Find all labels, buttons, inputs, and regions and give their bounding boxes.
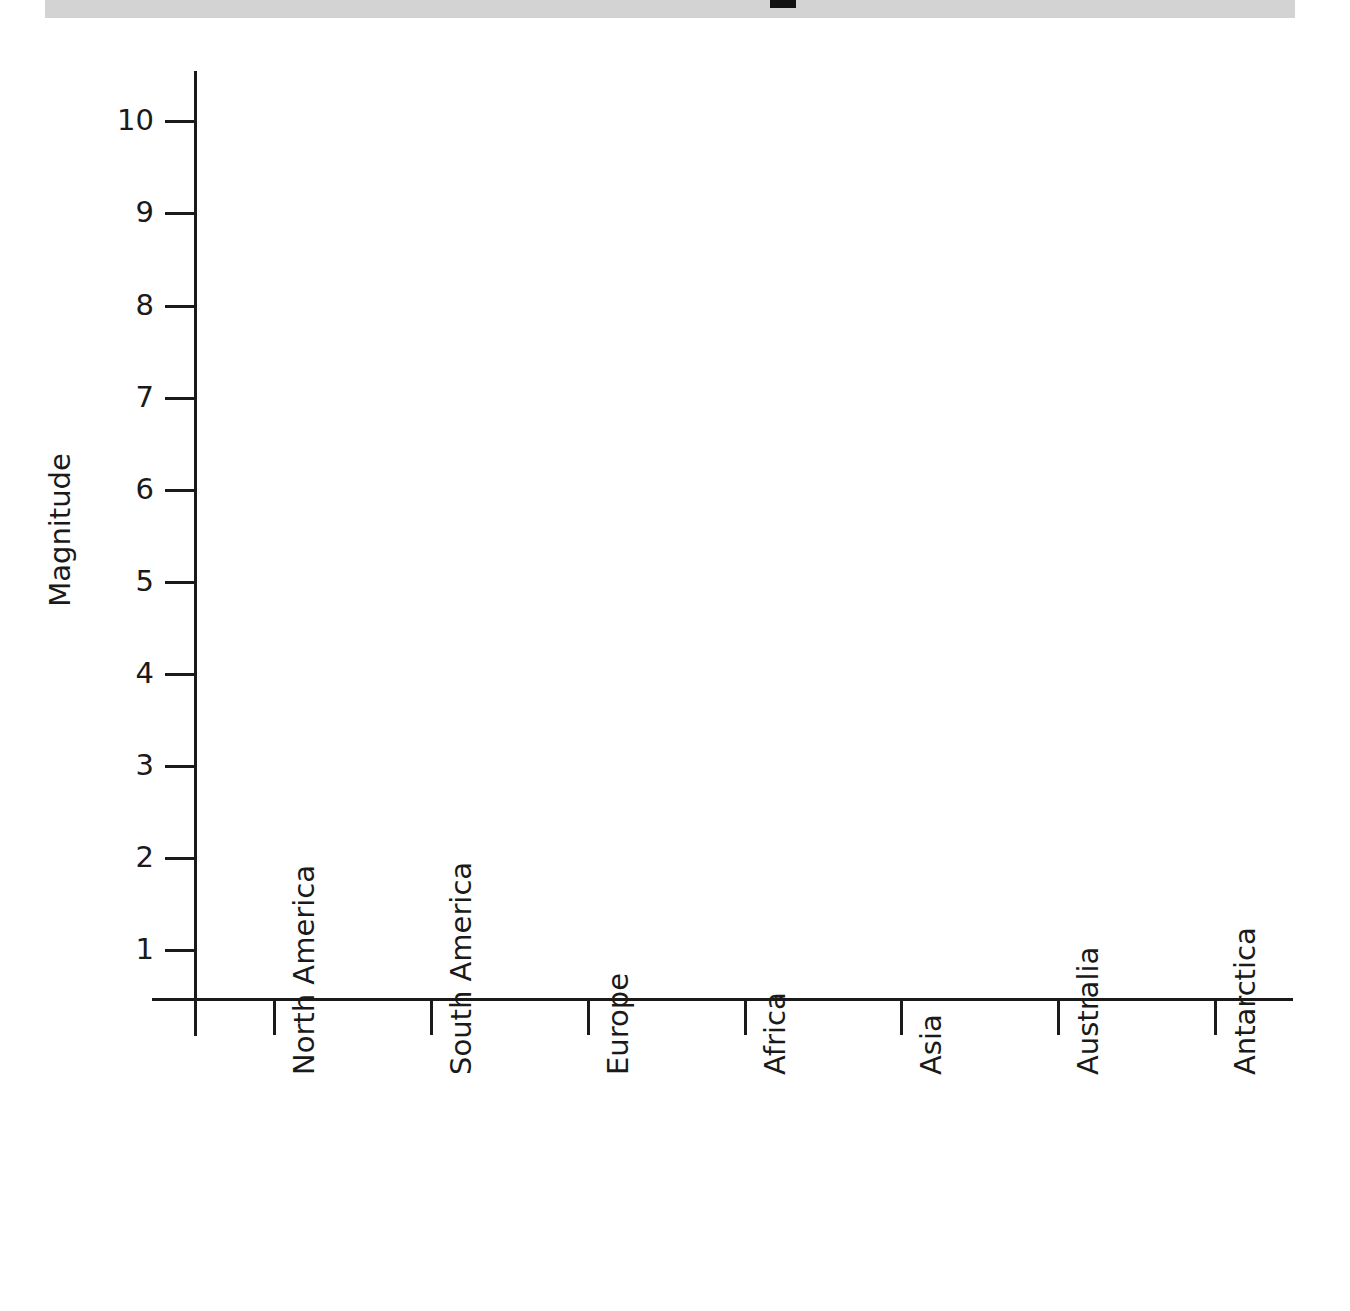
x-tick-mark [273, 1000, 276, 1035]
y-tick-mark [165, 120, 195, 123]
x-tick-label-europe: Europe [603, 1045, 633, 1075]
x-tick-label-text: Antarctica [1230, 1045, 1260, 1075]
y-tick-label: 1 [34, 935, 154, 964]
y-tick-mark [165, 949, 195, 952]
x-tick-mark [1057, 1000, 1060, 1035]
y-tick-label: 8 [34, 291, 154, 320]
y-tick-label: 2 [34, 843, 154, 872]
plot-area [197, 71, 1293, 998]
x-tick-mark [1214, 1000, 1217, 1035]
y-axis-spine [194, 71, 197, 1036]
y-tick-mark [165, 212, 195, 215]
x-tick-label-africa: Africa [760, 1045, 790, 1075]
y-tick-label: 10 [34, 106, 154, 135]
x-tick-mark [900, 1000, 903, 1035]
chart-figure: Magnitude 10 9 8 7 6 5 4 3 2 1 North Ame… [0, 0, 1350, 1311]
x-tick-label-text: Africa [760, 1045, 790, 1075]
y-tick-mark [165, 305, 195, 308]
x-tick-label-text: Asia [916, 1045, 946, 1075]
y-tick-label: 5 [34, 567, 154, 596]
x-tick-label-text: Europe [603, 1045, 633, 1075]
x-tick-label-north-america: North America [289, 1045, 319, 1075]
y-tick-label: 3 [34, 751, 154, 780]
y-tick-mark [165, 765, 195, 768]
x-axis-spine [152, 998, 1293, 1001]
y-tick-mark [165, 857, 195, 860]
x-tick-mark [587, 1000, 590, 1035]
x-tick-label-text: North America [289, 1045, 319, 1075]
y-tick-mark [165, 489, 195, 492]
x-tick-label-antarctica: Antarctica [1230, 1045, 1260, 1075]
y-tick-label: 4 [34, 659, 154, 688]
y-tick-label: 7 [34, 383, 154, 412]
x-tick-mark [744, 1000, 747, 1035]
x-tick-mark [430, 1000, 433, 1035]
y-tick-mark [165, 397, 195, 400]
y-tick-label: 6 [34, 475, 154, 504]
y-tick-mark [165, 673, 195, 676]
x-tick-label-text: Australia [1073, 1045, 1103, 1075]
y-tick-label: 9 [34, 198, 154, 227]
x-tick-label-asia: Asia [916, 1045, 946, 1075]
x-tick-label-text: South America [446, 1045, 476, 1075]
x-tick-label-australia: Australia [1073, 1045, 1103, 1075]
y-tick-mark [165, 581, 195, 584]
x-tick-label-south-america: South America [446, 1045, 476, 1075]
